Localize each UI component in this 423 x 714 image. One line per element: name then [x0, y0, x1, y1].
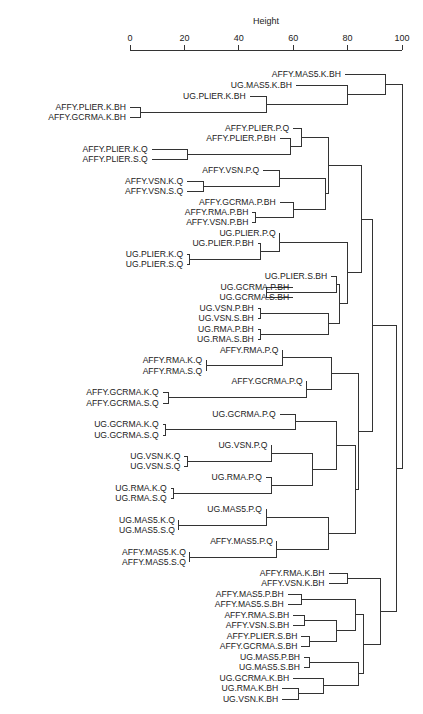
leaf-label: AFFY.RMA.P.BH — [185, 207, 249, 217]
dendrogram-branch — [301, 636, 309, 646]
tick-label: 100 — [394, 33, 409, 43]
leaf-label: UG.VSN.S.BH — [198, 313, 253, 323]
leaf-label: UG.RMA.P.Q — [212, 472, 263, 482]
tick-label: 40 — [234, 33, 244, 43]
leaf-label: UG.VSN.K.Q — [130, 451, 180, 461]
leaf-label: AFFY.GCRMA.S.BH — [220, 641, 298, 651]
leaf-label: UG.VSN.S.Q — [130, 461, 180, 471]
leaf-label: AFFY.VSN.S.Q — [125, 186, 183, 196]
dendrogram-branch — [271, 453, 312, 485]
leaf-label: UG.PLIER.S.BH — [265, 271, 328, 281]
leaf-label: UG.GCRMA.P.BH — [221, 282, 290, 292]
leaf-label: UG.GCRMA.K.Q — [94, 419, 159, 429]
dendrogram-branch — [356, 615, 364, 674]
leaf-label: AFFY.GCRMA.K.BH — [48, 112, 126, 122]
dendrogram-chart: Height 020406080100 AFFY.MAS5.K.BHUG.MAS… — [0, 0, 423, 714]
axis-title: Height — [253, 16, 280, 26]
leaf-label: AFFY.VSN.P.BH — [186, 217, 248, 227]
dendrogram-branch — [258, 308, 261, 318]
leaf-label: UG.RMA.K.BH — [221, 683, 278, 693]
dendrogram-branch — [301, 137, 328, 194]
leaf-label: AFFY.VSN.S.BH — [226, 620, 289, 630]
leaf-label: AFFY.GCRMA.P.Q — [231, 376, 303, 386]
dendrogram-branch — [163, 424, 166, 435]
dendrogram-branch — [386, 84, 402, 468]
leaf-label: AFFY.VSN.K.BH — [261, 578, 324, 588]
leaf-label: AFFY.GCRMA.S.Q — [86, 398, 159, 408]
leaf-label: AFFY.MAS5.K.Q — [122, 547, 186, 557]
leaf-label: AFFY.PLIER.K.Q — [82, 144, 148, 154]
leaf-label: UG.PLIER.K.Q — [126, 249, 184, 259]
dendrogram-branch — [304, 620, 337, 641]
dendrogram-branch — [290, 128, 301, 146]
dendrogram-branch — [372, 325, 396, 611]
leaf-label: AFFY.GCRMA.K.Q — [86, 387, 159, 397]
tick-label: 0 — [127, 33, 132, 43]
dendrogram-branch — [329, 573, 348, 583]
leaf-label: AFFY.VSN.K.Q — [125, 176, 183, 186]
leaf-label: AFFY.PLIER.S.BH — [227, 631, 298, 641]
dendrogram-branch — [293, 678, 323, 694]
height-axis: Height 020406080100 — [127, 16, 409, 50]
leaf-label: AFFY.MAS5.P.Q — [210, 536, 273, 546]
leaf-label: UG.RMA.P.BH — [198, 324, 254, 334]
leaf-label: UG.GCRMA.S.Q — [94, 430, 159, 440]
leaf-label: AFFY.VSN.P.Q — [202, 165, 259, 175]
leaf-label: UG.MAS5.S.Q — [119, 525, 175, 535]
leaf-label: UG.GCRMA.P.Q — [212, 409, 276, 419]
dendrogram-branch — [280, 178, 326, 210]
dendrogram-svg: Height 020406080100 AFFY.MAS5.K.BHUG.MAS… — [0, 0, 423, 714]
leaf-label: AFFY.MAS5.S.BH — [215, 599, 284, 609]
dendrogram-branch — [331, 374, 358, 490]
dendrogram-branch — [266, 517, 329, 549]
dendrogram-branch — [152, 149, 187, 159]
leaf-label: AFFY.PLIER.P.BH — [206, 133, 275, 143]
dendrogram-branch — [130, 107, 141, 117]
leaf-label: AFFY.PLIER.S.Q — [82, 154, 148, 164]
dendrogram-branch — [258, 329, 261, 339]
dendrogram-branch — [252, 212, 255, 222]
dendrogram-branch — [282, 688, 298, 699]
dendrogram-branch — [293, 615, 304, 625]
leaf-label: UG.GCRMA.S.BH — [219, 292, 289, 302]
leaf-label: AFFY.MAS5.S.Q — [122, 557, 186, 567]
tick-label: 60 — [288, 33, 298, 43]
dendrogram-branch — [329, 165, 362, 273]
leaf-label: UG.MAS5.S.BH — [239, 662, 300, 672]
leaf-label: AFFY.RMA.P.Q — [220, 345, 279, 355]
dendrogram-branch — [329, 445, 356, 533]
dendrogram-branch — [171, 488, 174, 498]
dendrogram-branch — [187, 181, 203, 191]
leaf-label: UG.RMA.K.Q — [115, 483, 167, 493]
dendrogram-branch — [301, 599, 355, 631]
leaf-label: UG.VSN.P.Q — [218, 440, 267, 450]
dendrogram-branch — [304, 657, 309, 667]
leaf-label: AFFY.RMA.K.BH — [260, 568, 325, 578]
leaf-label: UG.RMA.S.BH — [197, 334, 254, 344]
tick-label: 20 — [179, 33, 189, 43]
leaf-label: AFFY.RMA.S.BH — [224, 610, 289, 620]
leaf-label: AFFY.GCRMA.P.BH — [199, 197, 276, 207]
dendrogram-branch — [310, 662, 359, 686]
leaf-label: UG.VSN.P.BH — [200, 303, 254, 313]
leaf-label: UG.RMA.S.Q — [115, 493, 167, 503]
dendrogram-branch — [163, 392, 168, 403]
leaf-label: AFFY.PLIER.K.BH — [55, 102, 126, 112]
leaf-label: AFFY.PLIER.P.Q — [225, 123, 289, 133]
leaf-label: AFFY.MAS5.P.BH — [216, 589, 284, 599]
leaf-label: UG.PLIER.K.BH — [183, 91, 246, 101]
leaf-label: UG.MAS5.P.Q — [207, 504, 262, 514]
dendrogram-branch — [261, 313, 329, 334]
leaf-label: UG.PLIER.P.Q — [219, 228, 276, 238]
leaf-label: AFFY.RMA.K.Q — [143, 355, 203, 365]
leaf-label: UG.GCRMA.K.BH — [219, 673, 289, 683]
leaf-labels: AFFY.MAS5.K.BHUG.MAS5.K.BHUG.PLIER.K.BHA… — [48, 69, 341, 704]
dendrogram-branch — [288, 594, 302, 604]
dendrogram-branch — [345, 74, 386, 95]
tick-label: 80 — [343, 33, 353, 43]
leaf-label: AFFY.RMA.S.Q — [143, 366, 203, 376]
leaf-label: UG.MAS5.K.Q — [119, 515, 175, 525]
dendrogram-branch — [296, 422, 337, 469]
leaf-label: UG.PLIER.P.BH — [192, 238, 253, 248]
dendrogram-branch — [358, 219, 372, 431]
